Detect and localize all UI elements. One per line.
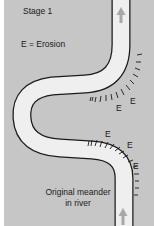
erosion-label: E (116, 104, 122, 113)
erosion-legend: E = Erosion (21, 39, 65, 49)
erosion-label: E (127, 141, 133, 150)
stage-title: Stage 1 (23, 6, 52, 16)
caption-line-2: in river (38, 198, 118, 209)
erosion-label: E (105, 130, 111, 139)
caption-line-1: Original meander (38, 187, 118, 198)
erosion-label: E (133, 162, 139, 171)
diagram-caption: Original meander in river (38, 187, 118, 209)
erosion-label: E (130, 97, 136, 106)
